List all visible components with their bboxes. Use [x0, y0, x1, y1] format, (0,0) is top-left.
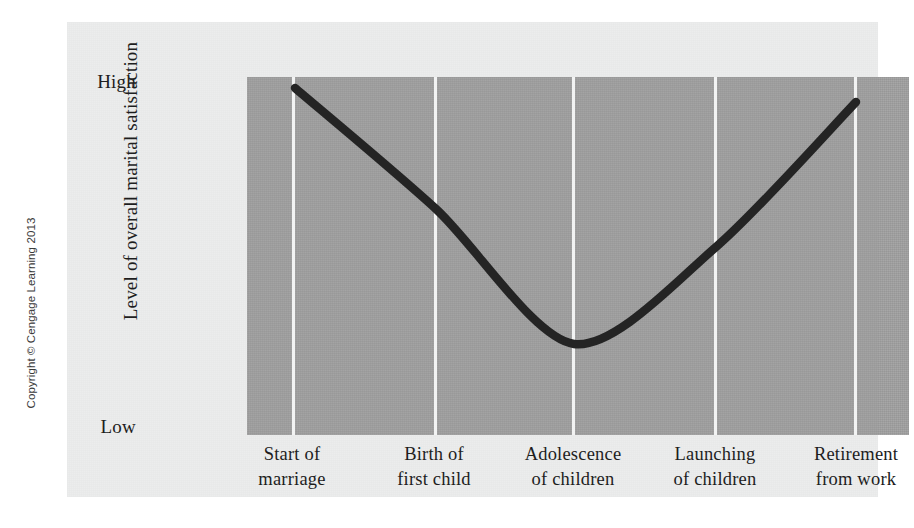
x-axis-tick-row: Start of marriage Birth of first child A… [247, 442, 909, 502]
satisfaction-curve [247, 77, 909, 435]
x-axis-tick-retirement-from-work: Retirement from work [781, 442, 914, 492]
x-tick-line-1: Retirement [781, 442, 914, 467]
copyright-notice: Copyright © Cengage Learning 2013 [25, 183, 37, 443]
x-tick-line-2: marriage [217, 467, 367, 492]
x-axis-tick-start-of-marriage: Start of marriage [217, 442, 367, 492]
figure-panel: High Low Level of overall marital satisf… [67, 22, 878, 497]
figure-container: High Low Level of overall marital satisf… [0, 0, 914, 528]
x-tick-line-1: Start of [217, 442, 367, 467]
x-tick-line-1: Launching [640, 442, 790, 467]
x-axis-tick-launching-of-children: Launching of children [640, 442, 790, 492]
x-tick-line-1: Birth of [359, 442, 509, 467]
x-tick-line-2: of children [640, 467, 790, 492]
y-axis-title: Level of overall marital satisfaction [120, 1, 142, 361]
plot-area [247, 77, 909, 435]
y-axis-tick-low: Low [26, 416, 136, 438]
x-axis-tick-adolescence-of-children: Adolescence of children [498, 442, 648, 492]
x-tick-line-2: first child [359, 467, 509, 492]
x-tick-line-2: of children [498, 467, 648, 492]
x-axis-tick-birth-of-first-child: Birth of first child [359, 442, 509, 492]
x-tick-line-1: Adolescence [498, 442, 648, 467]
x-tick-line-2: from work [781, 467, 914, 492]
